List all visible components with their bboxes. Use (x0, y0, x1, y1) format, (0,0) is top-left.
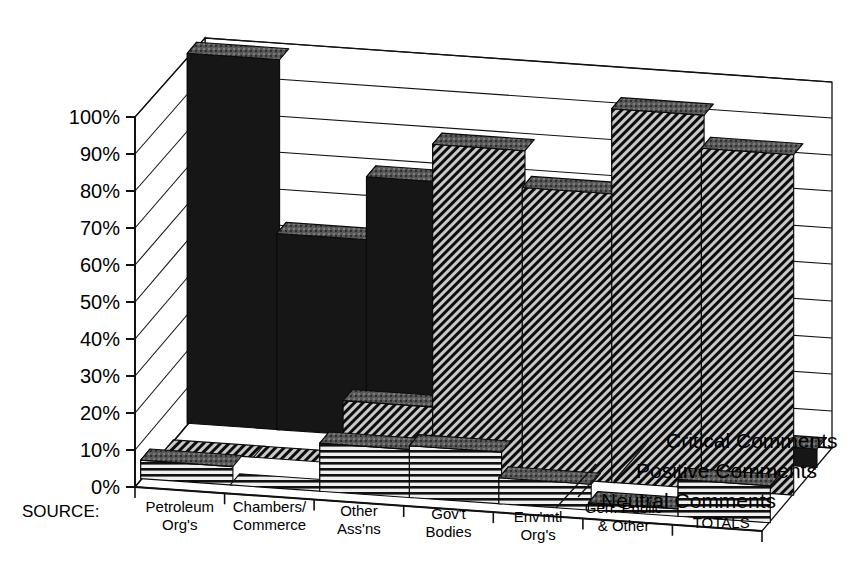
y-tick-label-20: 20% (80, 402, 120, 424)
bar-front-face (320, 443, 412, 498)
y-tick-label-90: 90% (80, 143, 120, 165)
category-label-3: Gov't (431, 505, 466, 522)
category-label-1: Chambers/ (233, 498, 307, 515)
legend-item-positive: Positive Comments (636, 459, 817, 482)
category-label-5: & Other (598, 517, 650, 534)
legend-item-neutral: Neutral Comments (601, 489, 776, 512)
category-label-2: Other (340, 502, 378, 519)
y-tick-label-60: 60% (80, 254, 120, 276)
y-tick-label-40: 40% (80, 328, 120, 350)
y-tick-label-10: 10% (80, 439, 120, 461)
bar-front-face (433, 144, 525, 476)
bar-front-face (187, 53, 279, 429)
three-d-bar-chart: 0% 10% 20% 30% 40% 50% 60% 70% 80% 90% 1… (0, 0, 866, 578)
bar (522, 176, 624, 482)
category-label-4: Env'mtl (514, 508, 563, 525)
y-tick-label-100: 100% (69, 106, 120, 128)
bar (433, 133, 535, 476)
y-tick-label-50: 50% (80, 291, 120, 313)
source-axis-label: SOURCE: (22, 502, 99, 521)
y-tick-label-80: 80% (80, 180, 120, 202)
category-label-2: Ass'ns (337, 520, 381, 537)
bar-front-face (409, 446, 501, 504)
bar (187, 42, 289, 430)
y-tick-label-0: 0% (91, 476, 120, 498)
y-tick-label-30: 30% (80, 365, 120, 387)
bar (141, 449, 243, 485)
category-label-1: Commerce (233, 516, 306, 533)
chart-container: 0% 10% 20% 30% 40% 50% 60% 70% 80% 90% 1… (0, 0, 866, 578)
bar-front-face (522, 188, 614, 483)
bar (320, 432, 422, 498)
bar (409, 435, 511, 504)
category-label-4: Org's (520, 526, 555, 543)
category-label-0: Petroleum (146, 498, 214, 515)
category-label-3: Bodies (426, 523, 472, 540)
category-label-6: TOTALS (693, 514, 750, 531)
category-label-0: Org's (162, 516, 197, 533)
legend-item-critical: Critical Comments (666, 429, 838, 452)
y-tick-label-70: 70% (80, 217, 120, 239)
y-axis: 0% 10% 20% 30% 40% 50% 60% 70% 80% 90% 1… (69, 106, 135, 498)
